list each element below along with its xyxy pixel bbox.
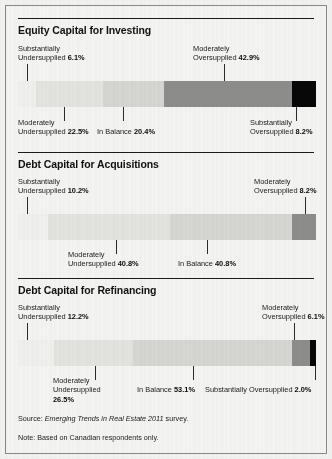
callout-in-balance: In Balance 53.1% xyxy=(137,385,195,394)
callout-value: 42.9% xyxy=(239,53,260,62)
leader-line xyxy=(27,197,28,214)
panel-divider xyxy=(18,18,314,19)
segment-in-balance xyxy=(170,214,292,240)
leader-line xyxy=(27,323,28,340)
callout-moderately-oversupplied: Moderately Oversupplied 6.1% xyxy=(262,303,324,322)
segment-substantially-undersupplied xyxy=(18,214,48,240)
callout-line2: Undersupplied xyxy=(18,312,66,321)
source-label: Source: xyxy=(18,414,45,423)
panel-title: Debt Capital for Acquisitions xyxy=(18,158,159,170)
callout-substantially-undersupplied: Substantially Undersupplied 12.2% xyxy=(18,303,89,322)
callout-line1: Substantially xyxy=(250,118,292,127)
segment-moderately-undersupplied xyxy=(36,81,103,107)
leader-line xyxy=(123,107,124,121)
callout-line1: Moderately xyxy=(53,376,90,385)
callout-value: 6.1% xyxy=(308,312,325,321)
callout-moderately-undersupplied: Moderately Undersupplied 40.8% xyxy=(68,250,139,269)
segment-moderately-undersupplied xyxy=(48,214,170,240)
panel-divider xyxy=(18,278,314,279)
stacked-bar xyxy=(18,81,316,107)
panel-title: Debt Capital for Refinancing xyxy=(18,284,156,296)
stacked-bar xyxy=(18,214,316,240)
leader-line xyxy=(207,240,208,254)
callout-value: 22.5% xyxy=(68,127,89,136)
callout-value: 6.1% xyxy=(68,53,85,62)
callout-in-balance: In Balance 20.4% xyxy=(97,127,155,136)
callout-line2: Undersupplied xyxy=(18,53,66,62)
callout-substantially-oversupplied: Substantially Oversupplied 2.0% xyxy=(205,385,311,394)
segment-substantially-oversupplied xyxy=(310,340,316,366)
stacked-bar xyxy=(18,340,316,366)
callout-moderately-oversupplied: Moderately Oversupplied 8.2% xyxy=(254,177,316,196)
callout-line1: Moderately xyxy=(18,118,55,127)
callout-line1: Substantially xyxy=(18,177,60,186)
callout-line2: Undersupplied xyxy=(18,127,66,136)
callout-value: 2.0% xyxy=(295,385,312,394)
callout-moderately-undersupplied: Moderately Undersupplied 26.5% xyxy=(53,376,101,404)
callout-line1: Moderately xyxy=(254,177,291,186)
callout-value: 8.2% xyxy=(296,127,313,136)
segment-moderately-oversupplied xyxy=(164,81,292,107)
callout-value: 12.2% xyxy=(68,312,89,321)
callout-value: 20.4% xyxy=(134,127,155,136)
callout-value: 40.8% xyxy=(215,259,236,268)
callout-line2: Undersupplied xyxy=(68,259,116,268)
segment-substantially-undersupplied xyxy=(18,81,36,107)
callout-value: 10.2% xyxy=(68,186,89,195)
callout-line1: In Balance xyxy=(178,259,213,268)
leader-line xyxy=(315,366,316,380)
segment-in-balance xyxy=(133,340,291,366)
source-note: Source: Emerging Trends in Real Estate 2… xyxy=(18,414,188,424)
source-title: Emerging Trends in Real Estate 2011 xyxy=(45,414,164,423)
callout-moderately-oversupplied: Moderately Oversupplied 42.9% xyxy=(193,44,260,63)
callout-value: 8.2% xyxy=(300,186,317,195)
callout-line1: Substantially Oversupplied xyxy=(205,385,293,394)
callout-line2: Oversupplied xyxy=(262,312,306,321)
segment-moderately-oversupplied xyxy=(292,340,310,366)
panel-debt-capital-for-acquisitions: Debt Capital for Acquisitions Substantia… xyxy=(6,146,326,274)
callout-line1: Moderately xyxy=(193,44,230,53)
leader-line xyxy=(27,64,28,81)
panel-divider xyxy=(18,152,314,153)
callout-value: 53.1% xyxy=(174,385,195,394)
callout-line2: Undersupplied xyxy=(18,186,66,195)
callout-line1: Substantially xyxy=(18,44,60,53)
callout-substantially-oversupplied: Substantially Oversupplied 8.2% xyxy=(250,118,312,137)
callout-line2: Oversupplied xyxy=(250,127,294,136)
callout-line1: Moderately xyxy=(262,303,299,312)
panel-equity-capital-for-investing: Equity Capital for Investing Substantial… xyxy=(6,6,326,146)
panel-debt-capital-for-refinancing: Debt Capital for Refinancing Substantial… xyxy=(6,274,326,404)
callout-in-balance: In Balance 40.8% xyxy=(178,259,236,268)
callout-line1: In Balance xyxy=(137,385,172,394)
panel-title: Equity Capital for Investing xyxy=(18,24,151,36)
callout-line1: Moderately xyxy=(68,250,105,259)
callout-substantially-undersupplied: Substantially Undersupplied 6.1% xyxy=(18,44,85,63)
callout-line2: Undersupplied xyxy=(53,385,101,394)
callout-line2: Oversupplied xyxy=(254,186,298,195)
callout-line2: Oversupplied xyxy=(193,53,237,62)
source-tail: survey. xyxy=(164,414,189,423)
segment-substantially-undersupplied xyxy=(18,340,54,366)
callout-line1: Substantially xyxy=(18,303,60,312)
segment-moderately-undersupplied xyxy=(54,340,133,366)
segment-substantially-oversupplied xyxy=(292,81,316,107)
callout-line1: In Balance xyxy=(97,127,132,136)
callout-moderately-undersupplied: Moderately Undersupplied 22.5% xyxy=(18,118,89,137)
respondent-note: Note: Based on Canadian respondents only… xyxy=(18,433,159,443)
figure-root: Equity Capital for Investing Substantial… xyxy=(0,0,332,459)
figure-border: Equity Capital for Investing Substantial… xyxy=(5,5,327,454)
leader-line xyxy=(193,366,194,380)
callout-value: 40.8% xyxy=(118,259,139,268)
segment-moderately-oversupplied xyxy=(292,214,316,240)
callout-value: 26.5% xyxy=(53,395,74,404)
callout-substantially-undersupplied: Substantially Undersupplied 10.2% xyxy=(18,177,89,196)
segment-in-balance xyxy=(103,81,164,107)
